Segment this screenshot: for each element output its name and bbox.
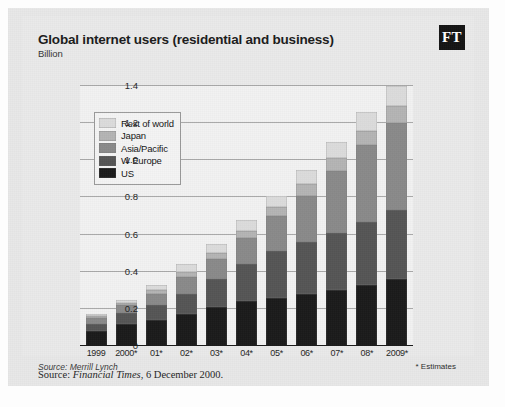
bar-segment	[266, 251, 287, 297]
x-axis-tick-label: 1999	[81, 348, 111, 362]
bar-segment	[326, 158, 347, 171]
legend-item[interactable]: US	[99, 167, 174, 180]
bar-segment	[236, 231, 257, 238]
y-axis-tick-label: 0.2	[125, 303, 138, 314]
bar-segment	[326, 171, 347, 232]
bar-column[interactable]	[86, 314, 107, 346]
legend-item[interactable]: Japan	[99, 130, 174, 143]
bar-segment	[356, 222, 377, 285]
legend-label: Japan	[121, 130, 146, 141]
newsprint-panel: Global internet users (residential and b…	[8, 8, 489, 386]
x-axis-tick-label: 02*	[171, 348, 201, 362]
y-axis-tick-label: 0.8	[125, 191, 138, 202]
bar-segment	[266, 196, 287, 207]
bar-segment	[386, 106, 407, 123]
x-axis-tick-label: 05*	[262, 348, 292, 362]
legend-label: US	[121, 168, 134, 179]
bar-segment	[146, 294, 167, 305]
bar-segment	[176, 264, 197, 271]
bar-column[interactable]	[206, 244, 227, 346]
bar-segment	[176, 294, 197, 314]
y-axis-tick-label: 0.6	[125, 229, 138, 240]
bar-segment	[266, 298, 287, 346]
x-axis-tick-label: 06*	[292, 348, 322, 362]
bar-segment	[296, 170, 317, 185]
bar-segment	[296, 242, 317, 294]
bar-segment	[146, 320, 167, 346]
bar-column[interactable]	[176, 264, 197, 346]
x-axis-tick-label: 01*	[141, 348, 171, 362]
bar-segment	[326, 290, 347, 346]
bar-segment	[236, 238, 257, 264]
legend-item[interactable]: Asia/Pacific	[99, 142, 174, 155]
bar-segment	[236, 264, 257, 301]
legend-label: Asia/Pacific	[121, 143, 168, 154]
x-axis-tick-label: 03*	[201, 348, 231, 362]
y-axis-tick-label: 1.4	[125, 80, 138, 91]
bar-segment	[206, 279, 227, 307]
bar-segment	[326, 142, 347, 159]
bar-segment	[356, 131, 377, 146]
x-axis-tick-label: 07*	[322, 348, 352, 362]
bar-column[interactable]	[296, 170, 317, 346]
caption-publication: Financial Times	[73, 369, 141, 380]
legend-swatch	[99, 143, 116, 153]
bar-segment	[266, 216, 287, 251]
bar-segment	[236, 220, 257, 231]
bar-segment	[296, 294, 317, 346]
y-axis-tick-label: 0.4	[125, 266, 138, 277]
bar-column[interactable]	[386, 86, 407, 346]
bar-segment	[206, 259, 227, 279]
y-axis-tick-label: 1.0	[125, 154, 138, 165]
bar-segment	[206, 244, 227, 253]
x-axis-tick-label: 08*	[352, 348, 382, 362]
legend-swatch	[99, 156, 116, 166]
bar-segment	[86, 324, 107, 331]
bar-column[interactable]	[146, 285, 167, 346]
chart-subtitle: Billion	[38, 48, 63, 59]
bar-segment	[356, 285, 377, 346]
bar-column[interactable]	[326, 142, 347, 346]
bar-segment	[116, 313, 137, 324]
x-axis-tick-label: 2000*	[111, 348, 141, 362]
bar-segment	[296, 196, 317, 242]
bar-column[interactable]	[236, 220, 257, 346]
logo-text: FT	[442, 30, 462, 45]
x-axis-tick-label: 04*	[231, 348, 261, 362]
bar-column[interactable]	[266, 196, 287, 346]
screenshot-page: Global internet users (residential and b…	[0, 0, 505, 407]
legend-swatch	[99, 118, 116, 128]
bar-segment	[296, 184, 317, 195]
bar-segment	[146, 305, 167, 320]
y-axis-tick-label: 1.2	[125, 117, 138, 128]
axis-baseline	[80, 345, 413, 346]
bar-segment	[386, 279, 407, 346]
figure-caption: Source: Financial Times, 6 December 2000…	[38, 369, 223, 380]
financial-times-logo: FT	[439, 25, 465, 50]
bar-segment	[326, 233, 347, 291]
caption-suffix: , 6 December 2000.	[141, 369, 224, 380]
bar-segment	[266, 207, 287, 216]
x-axis-tick-label: 2009*	[382, 348, 412, 362]
chart-card: Global internet users (residential and b…	[22, 16, 474, 356]
bar-segment	[386, 123, 407, 210]
x-axis-labels: 19992000*01*02*03*04*05*06*07*08*2009*	[80, 348, 413, 362]
chart-title: Global internet users (residential and b…	[38, 32, 334, 47]
bar-segment	[176, 277, 197, 294]
bar-segment	[386, 210, 407, 279]
bar-segment	[356, 145, 377, 221]
bar-segment	[386, 86, 407, 106]
caption-prefix: Source:	[38, 369, 73, 380]
bar-segment	[176, 314, 197, 346]
bar-column[interactable]	[356, 112, 377, 346]
bar-segment	[236, 301, 257, 346]
bar-segment	[356, 112, 377, 131]
legend-swatch	[99, 168, 116, 178]
legend-swatch	[99, 131, 116, 141]
estimates-note: * Estimates	[416, 362, 456, 371]
bar-segment	[206, 307, 227, 346]
